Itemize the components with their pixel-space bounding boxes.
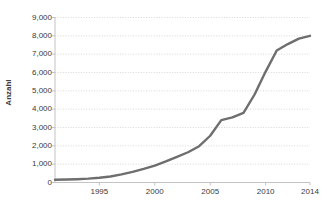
data-series-group: [55, 36, 310, 180]
axis-lines: [55, 18, 310, 183]
axis-tick-marks: [52, 18, 310, 186]
line-chart: Anzahl 01,0002,0003,0004,0005,0006,0007,…: [0, 0, 327, 208]
series-line-0: [55, 36, 310, 180]
plot-area: [0, 0, 327, 208]
gridlines: [55, 18, 310, 165]
